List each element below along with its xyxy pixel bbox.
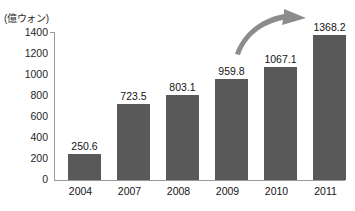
bar-group: 723.5 [117, 32, 150, 180]
bar-value-label: 250.6 [71, 141, 97, 152]
bar-group: 803.1 [166, 32, 199, 180]
bar [68, 154, 101, 180]
bar-value-label: 1067.1 [264, 54, 296, 65]
bar [117, 104, 150, 180]
bar-chart: (億ウォン) 1400 1200 1000 800 600 400 200 0 … [0, 0, 355, 211]
y-tick-label: 1200 [4, 48, 48, 59]
y-tick-label: 1000 [4, 69, 48, 80]
y-axis-tick-labels: 1400 1200 1000 800 600 400 200 0 [0, 0, 48, 211]
bar-value-label: 1368.2 [313, 22, 345, 33]
bar [313, 35, 346, 180]
y-tick-label: 800 [4, 90, 48, 101]
y-tick-label: 400 [4, 132, 48, 143]
x-tick-label: 2009 [201, 185, 254, 197]
x-tick-label: 2007 [103, 185, 156, 197]
x-tick-label: 2008 [152, 185, 205, 197]
x-tick-label: 2011 [299, 185, 352, 197]
bar-group: 1368.2 [313, 32, 346, 180]
bar [264, 67, 297, 180]
y-tick-label: 600 [4, 111, 48, 122]
x-tick-label: 2004 [54, 185, 107, 197]
y-tick-label: 1400 [4, 27, 48, 38]
y-tick-label: 200 [4, 153, 48, 164]
x-tick-label: 2010 [250, 185, 303, 197]
bar-value-label: 803.1 [169, 82, 195, 93]
plot-area: 250.6 723.5 803.1 959.8 1067.1 1368.2 [54, 32, 345, 180]
bar-value-label: 959.8 [218, 66, 244, 77]
bar [166, 95, 199, 180]
bar [215, 79, 248, 180]
y-tick-label: 0 [4, 174, 48, 185]
x-axis-line [54, 180, 345, 181]
bar-value-label: 723.5 [120, 91, 146, 102]
bar-group: 1067.1 [264, 32, 297, 180]
bar-group: 250.6 [68, 32, 101, 180]
bar-group: 959.8 [215, 32, 248, 180]
